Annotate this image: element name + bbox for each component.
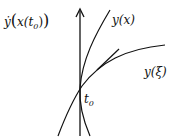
curve-x-label: y(x) xyxy=(112,14,135,26)
curve-xi-label: y(ξ) xyxy=(144,66,167,78)
derivative-inner: x(t xyxy=(17,15,33,29)
derivative-symbol: ẏ xyxy=(4,15,11,29)
tangent-line xyxy=(97,49,119,70)
point-label: t0 xyxy=(84,93,94,108)
diagram-canvas: ẏ(x(t0)) y(x) y(ξ) t0 xyxy=(0,0,175,138)
point-subscript: 0 xyxy=(89,99,94,108)
curve-y-of-xi xyxy=(58,45,165,136)
derivative-label: ẏ(x(t0)) xyxy=(4,13,49,31)
curve-y-of-x xyxy=(80,10,110,136)
